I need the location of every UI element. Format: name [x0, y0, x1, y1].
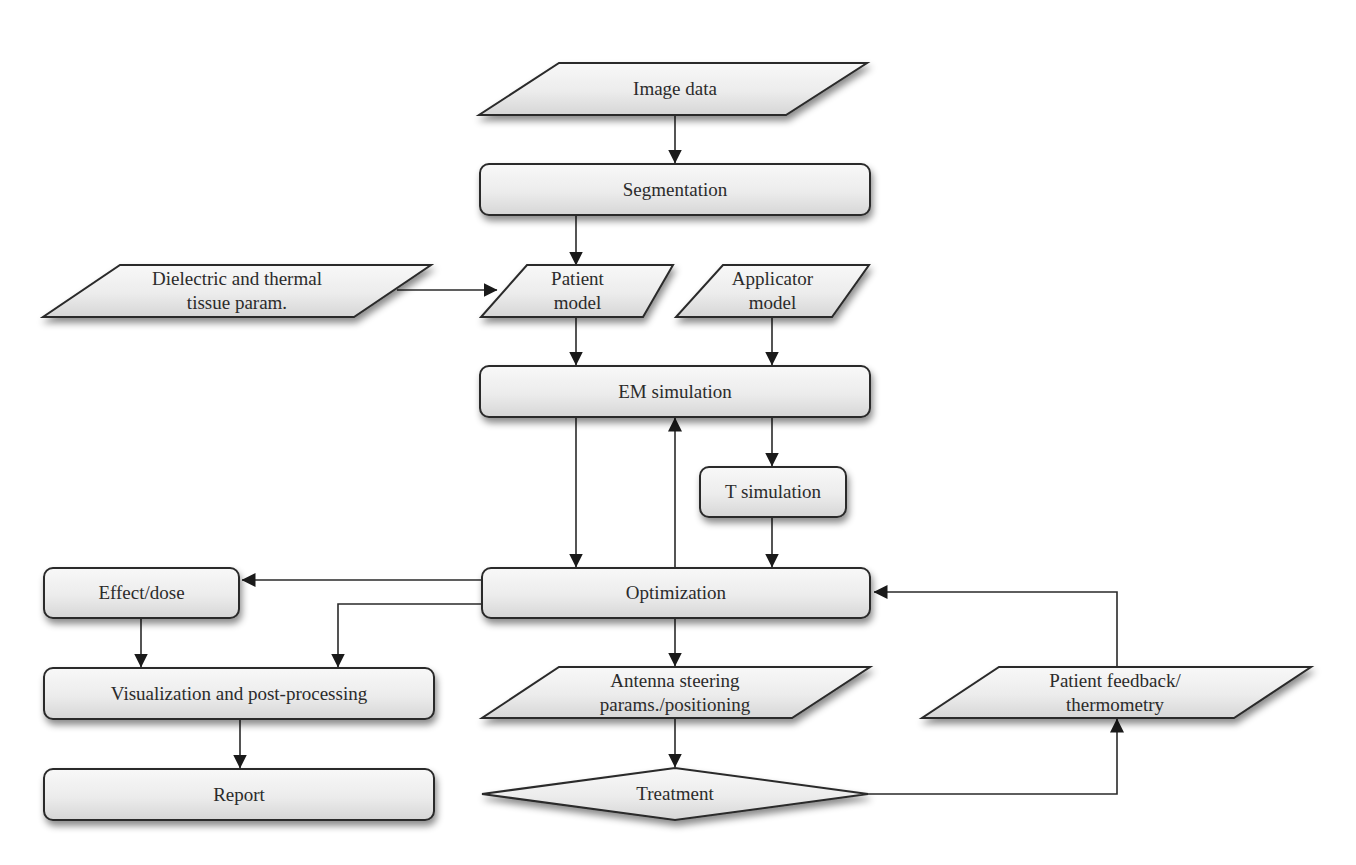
node-segmentation-shape	[480, 164, 870, 215]
node-visualization-shape	[44, 668, 434, 719]
node-feedback-shape	[922, 667, 1311, 718]
node-effect-dose-shape	[44, 568, 239, 618]
node-antenna-shape	[482, 667, 870, 718]
nodes	[43, 63, 1311, 820]
edge-treatment-to-feedback	[868, 719, 1117, 794]
edge-optimization-to-visualization	[338, 604, 482, 667]
node-image-data-shape	[479, 63, 867, 115]
node-t-simulation-shape	[700, 467, 846, 517]
edge-feedback-to-optimization	[874, 592, 1117, 667]
node-patient-model-shape	[481, 265, 673, 317]
node-em-simulation-shape	[480, 366, 870, 417]
flowchart-canvas	[0, 0, 1356, 865]
node-report-shape	[44, 769, 434, 820]
node-applicator-model-shape	[676, 265, 869, 317]
node-optimization-shape	[482, 568, 870, 618]
node-dielectric-shape	[43, 265, 431, 317]
node-treatment-shape	[482, 768, 868, 820]
